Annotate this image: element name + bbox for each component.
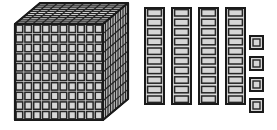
ten-rod: [145, 8, 164, 104]
unit-cube: [250, 57, 263, 70]
base-ten-blocks-illustration: Base ten blocks 1044 Thousand cube Ten r…: [0, 0, 277, 130]
unit-cubes: [250, 36, 263, 112]
blocks-canvas: [0, 0, 277, 130]
ten-rod: [199, 8, 218, 104]
ten-rods: [145, 8, 245, 104]
unit-cube: [250, 99, 263, 112]
unit-cube: [250, 78, 263, 91]
unit-cube: [250, 36, 263, 49]
thousand-cube: [15, 3, 128, 120]
ten-rod: [172, 8, 191, 104]
ten-rod: [226, 8, 245, 104]
